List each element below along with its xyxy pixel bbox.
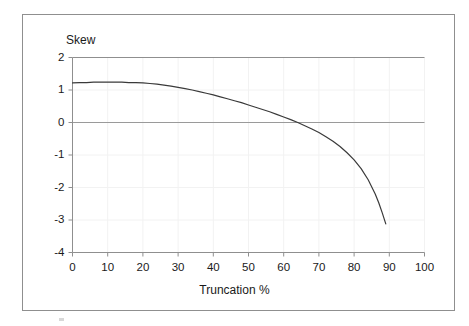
y-tick-label: -1 <box>33 148 65 160</box>
plot-area <box>0 0 469 326</box>
y-tick-label: 0 <box>33 116 65 128</box>
x-tick-label: 0 <box>53 261 93 273</box>
x-tick-label: 40 <box>193 261 233 273</box>
data-line-skew <box>73 82 386 224</box>
y-tick-label: -4 <box>33 246 65 258</box>
chart-canvas <box>0 0 469 326</box>
print-artifact-speck <box>59 318 64 321</box>
y-tick-label: -2 <box>33 181 65 193</box>
y-tick-label: -3 <box>33 213 65 225</box>
x-axis-title: Truncation % <box>0 283 469 297</box>
x-tick-label: 20 <box>123 261 163 273</box>
x-tick-label: 30 <box>158 261 198 273</box>
y-axis-title: Skew <box>66 33 95 47</box>
x-tick-label: 10 <box>88 261 128 273</box>
y-tick-label: 2 <box>33 51 65 63</box>
x-tick-label: 70 <box>299 261 339 273</box>
y-tick-label: 1 <box>33 83 65 95</box>
chart-figure: Skew Truncation % 210-1-2-3-401020304050… <box>0 0 469 326</box>
x-tick-label: 50 <box>229 261 269 273</box>
x-tick-label: 90 <box>369 261 409 273</box>
x-tick-label: 60 <box>264 261 304 273</box>
x-tick-label: 80 <box>334 261 374 273</box>
x-tick-label: 100 <box>405 261 445 273</box>
